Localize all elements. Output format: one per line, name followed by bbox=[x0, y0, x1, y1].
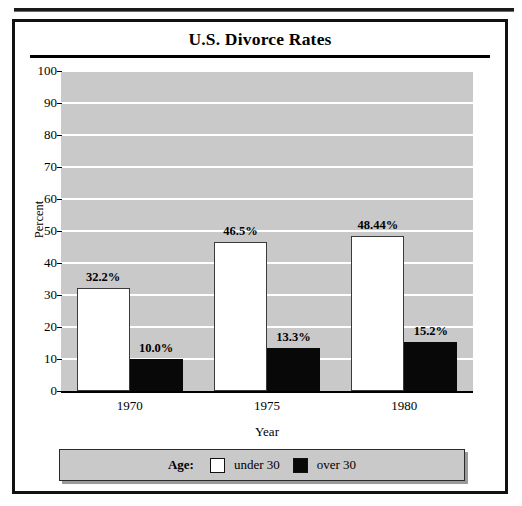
plot-wrapper: Percent 32.2%10.0%46.5%13.3%48.44%15.2% … bbox=[15, 22, 511, 497]
bar-1980-under-30[interactable] bbox=[351, 236, 404, 391]
plot-area: 32.2%10.0%46.5%13.3%48.44%15.2% bbox=[61, 71, 473, 391]
y-axis-tick-mark bbox=[57, 231, 62, 232]
figure-frame: U.S. Divorce Rates Percent 32.2%10.0%46.… bbox=[12, 19, 508, 494]
y-axis-tick-mark bbox=[57, 103, 62, 104]
gridline bbox=[61, 102, 473, 104]
x-axis-tick-label: 1975 bbox=[254, 398, 280, 414]
bar-1970-over-30[interactable] bbox=[130, 359, 183, 391]
legend-swatch-white bbox=[210, 458, 225, 473]
y-axis-tick-mark bbox=[57, 263, 62, 264]
y-axis-tick-label: 90 bbox=[17, 95, 57, 111]
bar-value-label: 15.2% bbox=[414, 324, 448, 339]
x-axis-tick-label: 1980 bbox=[391, 398, 417, 414]
bar-value-label: 48.44% bbox=[358, 218, 399, 233]
x-axis-baseline bbox=[61, 391, 473, 393]
gridline bbox=[61, 230, 473, 232]
top-rule-divider bbox=[14, 8, 514, 12]
gridline bbox=[61, 198, 473, 200]
legend-entry[interactable]: over 30 bbox=[293, 457, 356, 473]
y-axis-tick-label: 50 bbox=[17, 223, 57, 239]
bar-value-label: 32.2% bbox=[86, 270, 120, 285]
y-axis-tick-mark bbox=[57, 359, 62, 360]
y-axis-tick-label: 30 bbox=[17, 287, 57, 303]
bar-value-label: 10.0% bbox=[139, 341, 173, 356]
legend-content: Age: under 30over 30 bbox=[168, 457, 356, 473]
legend-title: Age: bbox=[168, 457, 194, 473]
x-axis-tick-label: 1970 bbox=[117, 398, 143, 414]
y-axis-tick-mark bbox=[57, 327, 62, 328]
bar-value-label: 13.3% bbox=[276, 330, 310, 345]
figure-page: U.S. Divorce Rates Percent 32.2%10.0%46.… bbox=[0, 0, 522, 506]
y-axis-tick-label: 20 bbox=[17, 319, 57, 335]
bar-1980-over-30[interactable] bbox=[404, 342, 457, 391]
bar-1975-under-30[interactable] bbox=[214, 242, 267, 391]
legend: Age: under 30over 30 bbox=[59, 449, 465, 481]
bar-1975-over-30[interactable] bbox=[267, 348, 320, 391]
gridline bbox=[61, 262, 473, 264]
y-axis-tick-mark bbox=[57, 135, 62, 136]
y-axis-tick-mark bbox=[57, 167, 62, 168]
y-axis-tick-label: 0 bbox=[17, 383, 57, 399]
y-axis-tick-label: 10 bbox=[17, 351, 57, 367]
x-axis-title: Year bbox=[61, 424, 473, 440]
legend-label: under 30 bbox=[234, 457, 280, 473]
y-axis-tick-mark bbox=[57, 71, 62, 72]
bar-1970-under-30[interactable] bbox=[77, 288, 130, 391]
y-axis-tick-label: 80 bbox=[17, 127, 57, 143]
y-axis-tick-mark bbox=[57, 295, 62, 296]
y-axis-tick-mark bbox=[57, 199, 62, 200]
gridline bbox=[61, 134, 473, 136]
y-axis-tick-label: 70 bbox=[17, 159, 57, 175]
y-axis-tick-labels: 0102030405060708090100 bbox=[15, 71, 57, 391]
y-axis-tick-label: 100 bbox=[17, 63, 57, 79]
y-axis-tick-label: 60 bbox=[17, 191, 57, 207]
y-axis-tick-mark bbox=[57, 391, 62, 392]
y-axis-tick-label: 40 bbox=[17, 255, 57, 271]
gridline bbox=[61, 166, 473, 168]
legend-swatch-black bbox=[293, 458, 308, 473]
legend-entry[interactable]: under 30 bbox=[210, 457, 280, 473]
bar-value-label: 46.5% bbox=[223, 224, 257, 239]
legend-label: over 30 bbox=[317, 457, 356, 473]
gridline bbox=[61, 70, 473, 72]
